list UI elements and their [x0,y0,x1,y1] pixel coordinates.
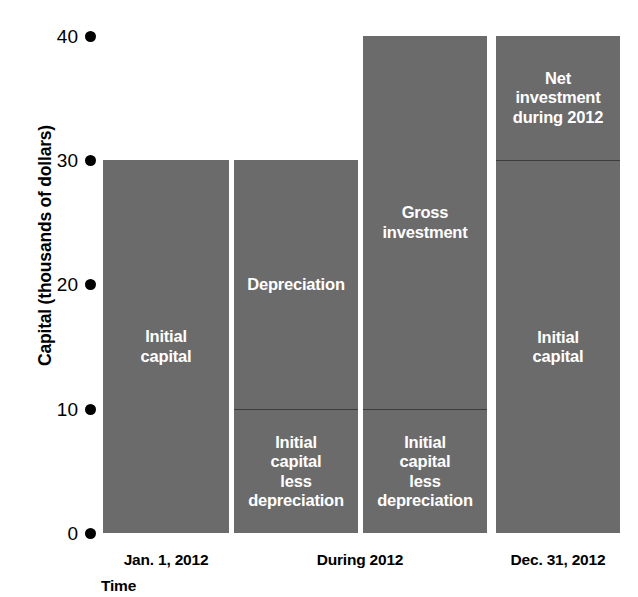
y-tick-30: 30 [34,151,96,169]
x-axis-title: Time [101,577,136,595]
bar-segment-label: Gross investment [378,203,471,241]
x-tick-label-jan-1-2012: Jan. 1, 2012 [103,551,229,569]
bar-segment-gross-investment: Gross investment [363,36,487,409]
y-tick-dot-icon-40 [85,31,96,42]
bar-segment-label: Initial capital less depreciation [373,433,477,510]
bar-segment-initial-capital: Initial capital [103,160,229,533]
y-tick-40: 40 [34,27,96,45]
y-tick-label-40: 40 [57,27,78,46]
y-tick-label-20: 20 [57,275,78,294]
y-tick-10: 10 [34,400,96,418]
y-tick-label-0: 0 [67,524,78,543]
y-tick-dot-icon-10 [85,404,96,415]
bar-during-2012-gross-investment: Gross investment Initial capital less de… [363,36,487,533]
y-tick-dot-icon-20 [85,279,96,290]
x-tick-label-during-2012: During 2012 [298,551,422,569]
bar-dec-31-2012: Net investment during 2012 Initial capit… [496,36,620,533]
bar-segment-label: Initial capital less depreciation [244,433,348,510]
bar-segment-initial-capital: Initial capital [496,160,620,533]
y-axis-title: Capital (thousands of dollars) [35,46,56,446]
y-tick-label-10: 10 [57,400,78,419]
x-tick-label-dec-31-2012: Dec. 31, 2012 [496,551,620,569]
bar-segment-depreciation: Depreciation [234,160,358,409]
bar-segment-initial-capital-less-depreciation: Initial capital less depreciation [363,409,487,533]
bar-segment-net-investment-during-2012: Net investment during 2012 [496,36,620,160]
bar-segment-label: Net investment during 2012 [509,69,607,126]
y-tick-0: 0 [34,524,96,542]
bar-segment-label: Depreciation [243,275,349,294]
bar-jan-1-2012: Initial capital [103,160,229,533]
bar-during-2012-depreciation: Depreciation Initial capital less deprec… [234,160,358,533]
bar-segment-initial-capital-less-depreciation: Initial capital less depreciation [234,409,358,533]
y-tick-dot-icon-0 [85,528,96,539]
capital-stacked-bar-chart: Capital (thousands of dollars) 40 30 20 … [0,0,638,597]
y-tick-dot-icon-30 [85,155,96,166]
y-tick-label-30: 30 [57,151,78,170]
bar-segment-label: Initial capital [137,327,196,365]
y-tick-20: 20 [34,275,96,293]
bar-segment-label: Initial capital [529,328,588,366]
